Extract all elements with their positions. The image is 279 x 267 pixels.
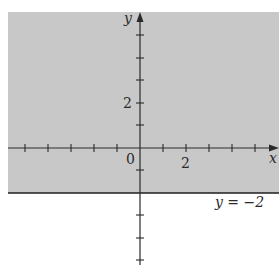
x-tick-label-2: 2	[181, 155, 190, 171]
origin-label: 0	[126, 151, 135, 167]
inequality-graph: y x 0 2 2 y = −2	[0, 0, 279, 267]
y-axis-label: y	[123, 10, 133, 26]
y-tick-label-2: 2	[123, 95, 132, 111]
x-axis-label: x	[269, 150, 277, 166]
boundary-label: y = −2	[214, 194, 264, 210]
